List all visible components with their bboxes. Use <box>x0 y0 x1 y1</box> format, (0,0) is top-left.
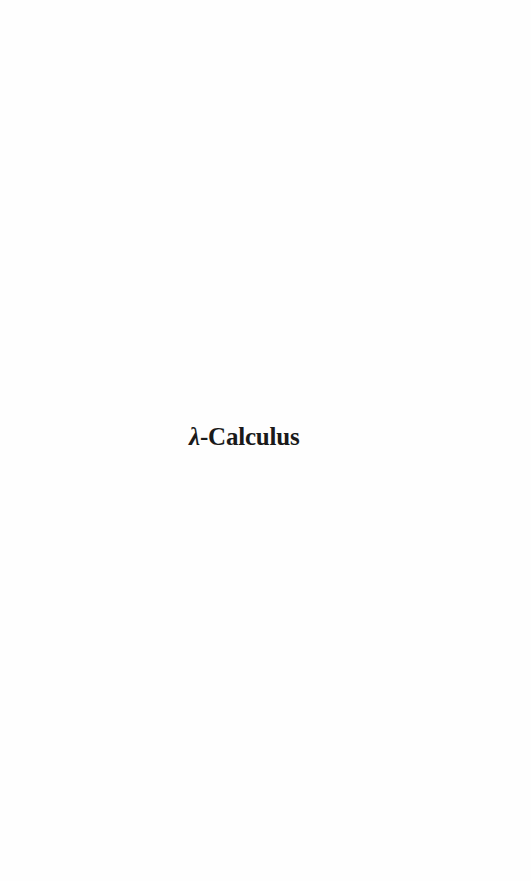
page-title: λ-Calculus <box>189 421 300 453</box>
document-page: λ-Calculus <box>0 0 531 881</box>
title-text: -Calculus <box>200 423 300 450</box>
title-lambda-symbol: λ <box>189 423 200 450</box>
